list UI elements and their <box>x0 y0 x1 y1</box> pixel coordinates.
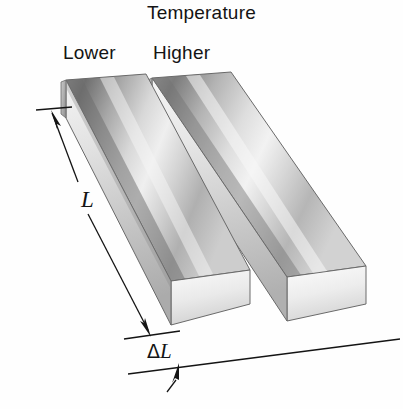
delta-arrow-up-tail <box>167 380 176 392</box>
length-arrow-bottom <box>140 318 151 337</box>
thermal-expansion-figure: Temperature Lower Higher L ΔL <box>0 0 403 409</box>
label-higher-temperature: Higher <box>153 43 210 62</box>
delta-reference-line-upper <box>124 331 180 339</box>
label-lower-temperature: Lower <box>63 43 116 62</box>
label-length-L: L <box>81 188 94 211</box>
figure-title: Temperature <box>0 3 403 22</box>
delta-symbol: Δ <box>147 340 160 362</box>
length-arrow-top <box>51 110 61 129</box>
label-delta-length: ΔL <box>147 341 172 362</box>
lower-bar-far-end <box>61 80 66 118</box>
delta-length-letter: L <box>160 339 172 363</box>
